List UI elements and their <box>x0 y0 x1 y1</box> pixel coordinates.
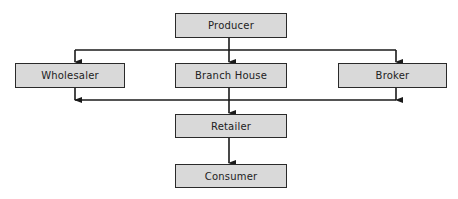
node-retailer: Retailer <box>175 114 287 138</box>
node-label: Branch House <box>195 70 267 81</box>
node-wholesaler: Wholesaler <box>15 63 125 88</box>
node-consumer: Consumer <box>175 164 287 188</box>
node-label: Consumer <box>205 171 258 182</box>
node-label: Producer <box>208 20 254 31</box>
node-branch-house: Branch House <box>175 63 287 88</box>
node-producer: Producer <box>175 13 287 38</box>
node-label: Broker <box>376 70 410 81</box>
node-label: Retailer <box>211 121 251 132</box>
node-label: Wholesaler <box>41 70 99 81</box>
node-broker: Broker <box>338 63 447 88</box>
